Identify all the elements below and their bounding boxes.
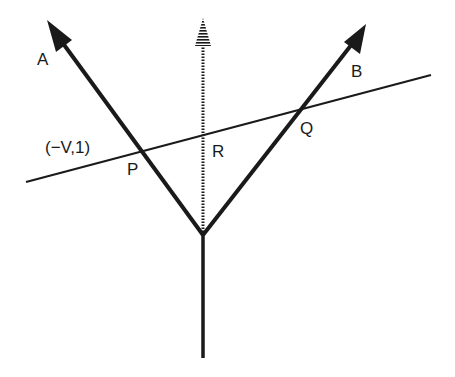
- ray-b-line: [203, 44, 352, 235]
- diagram-svg: [0, 0, 455, 377]
- label-b: B: [351, 63, 362, 80]
- label-r: R: [212, 143, 224, 160]
- center-arrowhead-icon: [195, 18, 211, 46]
- cut-line: [26, 75, 431, 182]
- diagram-canvas: A B P Q R (−V,1): [0, 0, 455, 377]
- label-a: A: [37, 51, 48, 68]
- label-coordinate: (−V,1): [45, 139, 90, 156]
- label-q: Q: [300, 120, 313, 137]
- label-p: P: [127, 161, 138, 178]
